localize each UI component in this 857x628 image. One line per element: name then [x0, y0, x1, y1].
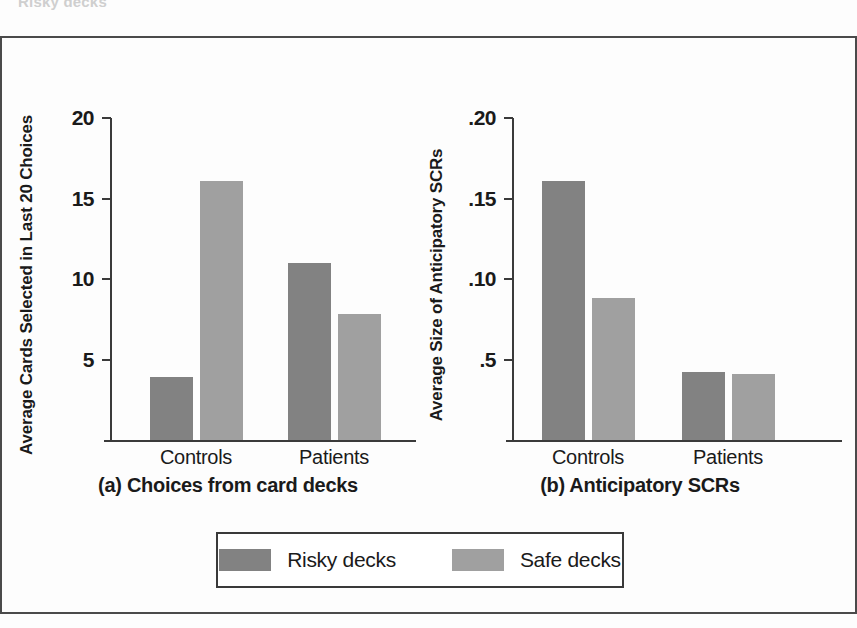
legend-item-safe[interactable]: Safe decks	[452, 548, 621, 572]
panel-a-caption: (a) Choices from card decks	[22, 474, 434, 497]
bar-b-controls-risky	[542, 181, 585, 440]
bar-a-patients-safe	[338, 314, 381, 440]
legend-label-risky: Risky decks	[287, 548, 396, 572]
bar-b-patients-risky	[682, 372, 725, 440]
panel-b-plot-area: .5.10.15.20 ControlsPatients	[446, 60, 842, 510]
panel-b-bars	[446, 60, 842, 442]
panel-a-y-axis-label-text: Average Cards Selected in Last 20 Choice…	[17, 115, 37, 455]
legend-swatch-safe	[452, 549, 504, 571]
panel-b-x-tick-patients: Patients	[693, 446, 763, 469]
figure-border-left	[0, 36, 2, 614]
legend-label-safe: Safe decks	[520, 548, 621, 572]
bar-a-patients-risky	[288, 263, 331, 440]
legend-swatch-risky	[219, 549, 271, 571]
panel-b-caption: (b) Anticipatory SCRs	[430, 474, 850, 497]
panel-b-x-tick-labels: ControlsPatients	[446, 446, 842, 476]
panel-a-x-tick-controls: Controls	[160, 446, 232, 469]
panel-b-x-tick-controls: Controls	[552, 446, 624, 469]
panel-b-y-axis-label-text: Average Size of Anticipatory SCRs	[427, 149, 447, 422]
chart-legend: Risky decksSafe decks	[216, 532, 624, 588]
panel-a-x-tick-patients: Patients	[299, 446, 369, 469]
panel-a-x-tick-labels: ControlsPatients	[44, 446, 416, 476]
bar-a-controls-safe	[200, 181, 243, 440]
page-bleed-text: Risky decks	[18, 0, 107, 10]
chart-panel-b: Average Size of Anticipatory SCRs .5.10.…	[424, 60, 844, 510]
legend-item-risky[interactable]: Risky decks	[219, 548, 396, 572]
bar-a-controls-risky	[150, 377, 193, 440]
chart-panel-a: Average Cards Selected in Last 20 Choice…	[8, 60, 420, 510]
panel-a-plot-area: 5101520 ControlsPatients	[44, 60, 416, 510]
bar-b-controls-safe	[592, 298, 635, 440]
bar-b-patients-safe	[732, 374, 775, 440]
panel-a-y-axis-label: Average Cards Selected in Last 20 Choice…	[14, 60, 40, 510]
figure-container: Risky decks Average Cards Selected in La…	[0, 0, 857, 628]
figure-border-top	[0, 36, 857, 38]
panel-a-bars	[44, 60, 416, 442]
figure-border-bottom	[0, 612, 857, 614]
